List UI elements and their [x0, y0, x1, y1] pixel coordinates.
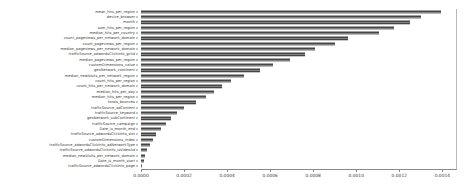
x-tick-label: 0.0014 — [435, 173, 450, 178]
y-tick-mark — [136, 134, 138, 135]
bar — [141, 63, 273, 66]
bar — [141, 106, 184, 109]
x-tick-label: 0.0004 — [219, 173, 234, 178]
bar — [141, 165, 142, 168]
y-tick-label: trafficSource_adContent — [91, 106, 138, 110]
y-tick-mark — [136, 155, 138, 156]
y-tick-mark — [136, 43, 138, 44]
y-tick-label: median_newVisits_per_network_domain — [63, 154, 138, 158]
y-tick-mark — [136, 27, 138, 28]
y-tick-mark — [136, 59, 138, 60]
y-tick-mark — [136, 22, 138, 23]
y-tick-mark — [136, 112, 138, 113]
y-tick-label: trafficSource_adwordsClickInfo_isVideoAd — [60, 148, 139, 152]
y-tick-label: count_pageviews_per_network_domain — [64, 36, 138, 40]
bar — [141, 79, 231, 82]
y-tick-label: count_hits_per_region — [95, 79, 138, 83]
x-tick-mark — [442, 170, 443, 172]
bar — [141, 69, 260, 72]
y-tick-mark — [136, 160, 138, 161]
x-tick-label: 0.0000 — [133, 173, 148, 178]
y-tick-label: customDimensions_index — [89, 138, 138, 142]
y-tick-label: trafficSource_adwordsClickInfo_adNetwork… — [49, 143, 138, 147]
feature-importance-bar-chart: mean_hits_per_regiondevice_browsermonths… — [0, 0, 473, 188]
x-tick-label: 0.0012 — [392, 173, 407, 178]
y-tick-mark — [136, 102, 138, 103]
bar — [141, 101, 196, 104]
y-axis-tick-labels: mean_hits_per_regiondevice_browsermonths… — [0, 9, 138, 170]
y-tick-mark — [136, 150, 138, 151]
y-tick-label-row: trafficSource_adwordsClickInfo_page — [0, 164, 138, 169]
y-tick-label: device_browser — [107, 15, 138, 19]
y-tick-label: median_hits_per_country — [89, 31, 138, 35]
y-tick-label: trafficSource_campaign — [92, 122, 138, 126]
x-tick-mark — [227, 170, 228, 172]
y-tick-mark — [136, 128, 138, 129]
y-tick-label: count_hits_per_network_domain — [77, 84, 139, 88]
bar — [141, 117, 171, 120]
x-tick-mark — [399, 170, 400, 172]
y-tick-mark — [136, 80, 138, 81]
y-tick-label: trafficSource_adwordsClickInfo_page — [68, 164, 138, 168]
y-tick-label: trafficSource_keyword — [95, 111, 138, 115]
x-axis: 0.00000.00020.00040.00060.00080.00100.00… — [141, 170, 457, 188]
bar — [141, 154, 145, 157]
bar — [141, 159, 144, 162]
bar — [141, 90, 214, 93]
bar — [141, 47, 315, 50]
y-tick-label: median_pageviews_per_network_domain — [60, 47, 138, 51]
bar — [141, 37, 348, 40]
bar — [141, 143, 150, 146]
bar — [141, 122, 166, 125]
bar-row — [141, 164, 456, 169]
y-tick-mark — [136, 48, 138, 49]
bar — [141, 133, 156, 136]
bar — [141, 138, 153, 141]
x-tick-mark — [141, 170, 142, 172]
y-tick-label: median_hits_per_day — [97, 90, 138, 94]
plot-area — [141, 9, 457, 170]
bar — [141, 26, 394, 29]
y-tick-mark — [136, 38, 138, 39]
y-tick-label: median_hits_per_region — [92, 95, 138, 99]
y-tick-mark — [136, 16, 138, 17]
y-tick-mark — [136, 86, 138, 87]
y-tick-mark — [136, 139, 138, 140]
x-tick-label: 0.0002 — [176, 173, 191, 178]
y-tick-mark — [136, 96, 138, 97]
x-tick-label: 0.0010 — [349, 173, 364, 178]
y-tick-label: trafficSource_adwordsClickInfo_slot — [71, 132, 138, 136]
y-tick-mark — [136, 70, 138, 71]
y-tick-mark — [136, 75, 138, 76]
y-tick-label: Date_is_month_start — [98, 159, 138, 163]
y-tick-label: trafficSource_adwordsClickInfo_gclId — [69, 52, 138, 56]
bar — [141, 21, 410, 24]
x-tick-mark — [184, 170, 185, 172]
y-tick-label: Date_is_month_end — [99, 127, 138, 131]
y-tick-label: customDimensions_value — [89, 63, 138, 67]
bar — [141, 95, 206, 98]
y-tick-label: count_pageviews_per_region — [82, 42, 138, 46]
bar — [141, 74, 244, 77]
bar — [141, 58, 290, 61]
y-tick-mark — [136, 107, 138, 108]
x-tick-mark — [313, 170, 314, 172]
bar — [141, 149, 147, 152]
bar — [141, 31, 379, 34]
x-tick-label: 0.0008 — [306, 173, 321, 178]
bar — [141, 85, 222, 88]
y-tick-mark — [136, 54, 138, 55]
y-tick-mark — [136, 32, 138, 33]
bar — [141, 10, 441, 13]
y-tick-mark — [136, 144, 138, 145]
x-tick-mark — [270, 170, 271, 172]
y-tick-mark — [136, 91, 138, 92]
y-tick-label: sum_hits_per_region — [98, 26, 138, 30]
bar — [141, 127, 161, 130]
x-tick-label: 0.0006 — [262, 173, 277, 178]
x-tick-mark — [356, 170, 357, 172]
y-tick-mark — [136, 166, 138, 167]
y-tick-mark — [136, 64, 138, 65]
y-tick-mark — [136, 123, 138, 124]
y-tick-mark — [136, 11, 138, 12]
